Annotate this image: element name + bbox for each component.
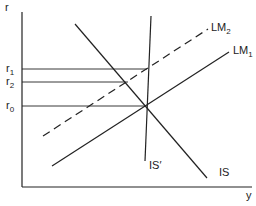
r2-label: r2: [6, 76, 14, 90]
x-axis-label: y: [246, 190, 252, 201]
is-prime-label: IS′: [149, 160, 161, 171]
lm2-curve: [43, 29, 208, 136]
lm2-label: LM2: [211, 22, 231, 36]
is-curve: [75, 24, 207, 178]
lm1-label: LM1: [233, 45, 253, 59]
is-label: IS: [219, 167, 229, 178]
is-prime-curve: [145, 16, 151, 161]
y-axis-label: r: [5, 2, 9, 13]
r0-label: r0: [6, 100, 14, 114]
